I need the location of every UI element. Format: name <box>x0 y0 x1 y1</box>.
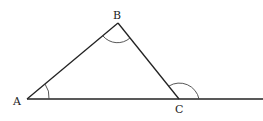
angle-mark-exterior-c <box>169 83 199 99</box>
angle-mark-a <box>45 84 49 99</box>
triangle-diagram: A B C <box>0 0 263 121</box>
label-c: C <box>175 103 183 116</box>
side-ab <box>27 23 118 99</box>
side-bc <box>118 23 179 99</box>
label-b: B <box>113 9 121 22</box>
angle-mark-b <box>103 36 130 43</box>
diagram: A B C <box>0 0 263 121</box>
label-a: A <box>12 95 22 108</box>
